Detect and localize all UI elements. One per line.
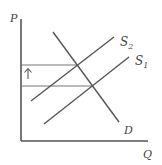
x-axis-label: Q	[143, 148, 152, 161]
supply-curve-s1	[44, 57, 129, 124]
s2-label: S2	[120, 35, 133, 51]
arrow-up-icon	[25, 69, 32, 80]
supply-demand-diagram: P Q S2 S1 D	[0, 0, 162, 165]
d-label: D	[123, 124, 133, 137]
y-axis-label: P	[9, 12, 18, 25]
s1-label: S1	[135, 54, 148, 70]
supply-curve-s2	[31, 37, 114, 101]
